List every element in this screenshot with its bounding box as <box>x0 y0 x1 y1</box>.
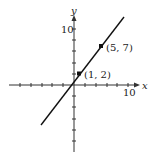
x-axis-label: x <box>142 80 148 91</box>
point-label-5-7: (5, 7) <box>106 42 133 53</box>
point-1-2 <box>77 72 81 76</box>
line-graph: y x 10 10 (1, 2) (5, 7) <box>0 0 151 157</box>
x-tick-label-10: 10 <box>123 87 136 98</box>
graph-line <box>41 17 124 125</box>
y-axis-label: y <box>70 5 77 16</box>
point-5-7 <box>99 44 103 48</box>
point-label-1-2: (1, 2) <box>84 69 111 80</box>
y-tick-label-10: 10 <box>61 24 74 35</box>
